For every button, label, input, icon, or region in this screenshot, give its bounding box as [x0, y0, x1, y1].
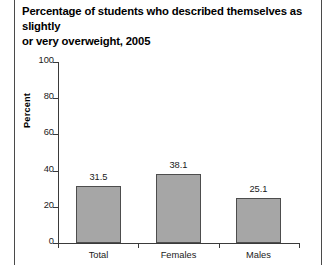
x-tick-0	[58, 244, 59, 248]
chart-title-line-2: or very overweight, 2005	[22, 35, 150, 47]
bar-value-females: 38.1	[156, 160, 201, 170]
bar-males	[236, 198, 281, 243]
y-tick-label-20: 20	[44, 200, 54, 210]
x-tick-3	[299, 244, 300, 248]
bar-value-total: 31.5	[76, 172, 121, 182]
y-tick-label-40: 40	[44, 164, 54, 174]
bar-total	[76, 186, 121, 243]
column-rule-left	[14, 0, 15, 265]
y-tick-label-100: 100	[38, 55, 54, 65]
bar-value-males: 25.1	[236, 184, 281, 194]
y-axis-line	[58, 62, 59, 244]
bar-females	[156, 174, 201, 243]
y-axis-label: Percent	[22, 93, 32, 128]
x-category-label-total: Total	[66, 250, 131, 260]
column-rule-right	[321, 0, 322, 265]
y-tick-label-60: 60	[44, 127, 54, 137]
y-tick-label-80: 80	[44, 91, 54, 101]
x-tick-1	[138, 244, 139, 248]
chart-figure: Percentage of students who described the…	[0, 0, 335, 265]
plot-area: 0 20 40 60 80 100 31.5 Total 3	[58, 62, 300, 244]
x-axis-line	[58, 243, 300, 244]
chart-title-line-1: Percentage of students who described the…	[22, 5, 302, 32]
chart-title: Percentage of students who described the…	[22, 4, 314, 49]
y-tick-label-0: 0	[49, 236, 54, 246]
x-category-label-males: Males	[226, 250, 291, 260]
x-category-label-females: Females	[146, 250, 211, 260]
x-tick-2	[219, 244, 220, 248]
